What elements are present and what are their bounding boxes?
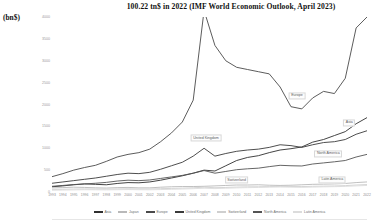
y-tick-label: 2500 <box>20 81 50 85</box>
y-tick-label: 2000 <box>20 103 50 107</box>
x-tick-label: 2001 <box>135 193 143 197</box>
chart-legend: AsiaJapanEuropeUnited KingdomSwitzerland… <box>52 207 367 217</box>
x-tick-label: 2017 <box>309 193 317 197</box>
y-tick-label: 3500 <box>20 37 50 41</box>
legend-item[interactable]: Asia <box>94 210 112 214</box>
legend-item[interactable]: Switzerland <box>217 210 246 214</box>
legend-color-swatch <box>253 211 262 213</box>
x-tick-label: 2021 <box>352 193 360 197</box>
x-tick-label: 2000 <box>124 193 132 197</box>
legend-label: Latin America <box>304 210 325 214</box>
x-tick-label: 2019 <box>331 193 339 197</box>
x-axis-tick-labels: 1993199419951996199719981999200020012002… <box>52 193 367 202</box>
series-lines <box>52 17 367 192</box>
y-tick-label: 500 <box>20 168 50 172</box>
legend-color-swatch <box>94 211 103 213</box>
x-tick-label: 1996 <box>81 193 89 197</box>
plot-area: AsiaEuropeUnited KingdomSwitzerlandNorth… <box>52 17 367 192</box>
legend-item[interactable]: United Kingdom <box>175 210 211 214</box>
x-tick-label: 2008 <box>211 193 219 197</box>
y-tick-label: 3000 <box>20 59 50 63</box>
legend-color-swatch <box>175 211 184 213</box>
series-annotation: Asia <box>343 119 355 126</box>
legend-label: United Kingdom <box>186 210 211 214</box>
y-tick-label: 1000 <box>20 146 50 150</box>
legend-label: Switzerland <box>228 210 246 214</box>
x-tick-label: 2022 <box>363 193 371 197</box>
x-tick-label: 1997 <box>92 193 100 197</box>
x-tick-label: 2003 <box>157 193 165 197</box>
legend-item[interactable]: Europe <box>146 210 168 214</box>
x-tick-label: 1999 <box>113 193 121 197</box>
x-tick-label: 2011 <box>244 193 251 197</box>
series-annotation: Switzerland <box>225 177 249 184</box>
legend-item[interactable]: North America <box>253 210 286 214</box>
x-tick-label: 1993 <box>48 193 56 197</box>
legend-color-swatch <box>146 211 155 213</box>
x-tick-label: 1994 <box>59 193 67 197</box>
chart-container: 100.22 tn$ in 2022 (IMF World Economic O… <box>0 0 373 224</box>
legend-color-swatch <box>217 211 226 213</box>
x-tick-label: 2015 <box>287 193 295 197</box>
legend-color-swatch <box>118 211 127 213</box>
series-annotation: North America <box>314 150 342 157</box>
legend-label: North America <box>264 210 286 214</box>
x-tick-label: 2020 <box>341 193 349 197</box>
x-tick-label: 2006 <box>189 193 197 197</box>
x-tick-label: 2004 <box>168 193 176 197</box>
x-tick-label: 2007 <box>200 193 208 197</box>
legend-item[interactable]: Japan <box>118 210 138 214</box>
y-tick-label: 4000 <box>20 15 50 19</box>
x-tick-label: 1995 <box>70 193 78 197</box>
legend-divider <box>52 219 367 220</box>
x-tick-label: 2005 <box>179 193 187 197</box>
y-tick-label: 0 <box>20 190 50 194</box>
y-tick-label: 1500 <box>20 124 50 128</box>
legend-label: Europe <box>156 210 167 214</box>
legend-color-swatch <box>293 211 302 213</box>
chart-title: 100.22 tn$ in 2022 (IMF World Economic O… <box>95 2 367 11</box>
series-annotation: Latin America <box>319 176 346 183</box>
x-tick-label: 2009 <box>222 193 230 197</box>
legend-item[interactable]: Latin America <box>293 210 325 214</box>
x-tick-label: 2012 <box>255 193 263 197</box>
series-annotation: United Kingdom <box>191 135 222 142</box>
series-annotation: Europe <box>289 92 306 99</box>
legend-label: Japan <box>129 210 139 214</box>
x-tick-label: 2016 <box>298 193 306 197</box>
x-tick-label: 2018 <box>320 193 328 197</box>
x-tick-label: 2010 <box>233 193 241 197</box>
x-tick-label: 2014 <box>276 193 284 197</box>
y-axis-tick-labels: 05001000150020002500300035004000 <box>18 17 50 192</box>
x-tick-label: 2002 <box>146 193 154 197</box>
x-tick-label: 1998 <box>103 193 111 197</box>
legend-label: Asia <box>104 210 111 214</box>
x-tick-label: 2013 <box>265 193 273 197</box>
